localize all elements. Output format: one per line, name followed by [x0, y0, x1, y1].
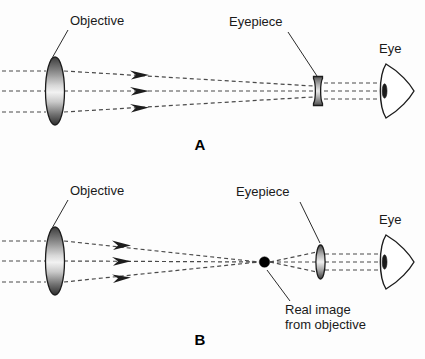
iris-b [382, 255, 387, 269]
eye-label-b: Eye [379, 212, 401, 227]
optics-figure: Objective Eyepiece Eye A [0, 0, 425, 359]
ray-arrowhead-top [130, 71, 149, 80]
eyepiece-label-b: Eyepiece [236, 184, 289, 199]
ray-diagram-canvas: Objective Eyepiece Eye A [0, 0, 425, 359]
panel-b: Objective Eyepiece Eye Real image from o… [2, 183, 414, 348]
diverging-ray-bottom-b [270, 262, 317, 272]
panel-letter-a: A [195, 136, 206, 153]
panel-b-exit-rays [325, 254, 383, 270]
converging-ray-middle-b [64, 261, 259, 262]
panel-a-exit-rays [324, 83, 383, 99]
objective-lens-b [46, 227, 65, 295]
eyepiece-label-a: Eyepiece [229, 14, 282, 29]
ray-arrowhead-top-b [112, 241, 131, 251]
eyepiece-leader-a [288, 32, 317, 76]
eye-label-a: Eye [379, 41, 401, 56]
objective-label-b: Objective [70, 183, 124, 198]
eyepiece-lens-concave [314, 77, 323, 106]
objective-leader-a [51, 30, 68, 60]
eyepiece-leader-b [300, 202, 320, 243]
ray-arrowhead-middle [130, 87, 149, 96]
panel-letter-b: B [195, 331, 206, 348]
diverging-ray-top-b [270, 252, 317, 262]
real-image-leader [267, 270, 290, 301]
converging-ray-bottom-b [64, 262, 259, 282]
eyepiece-lens-convex [316, 245, 325, 279]
eye-symbol-b [380, 235, 414, 289]
objective-label-a: Objective [70, 13, 124, 28]
real-image-dot [259, 257, 269, 267]
panel-b-converging-rays [64, 241, 259, 282]
panel-b-incoming-rays [2, 241, 46, 282]
panel-a-incoming-rays [2, 71, 46, 112]
objective-leader-b [51, 200, 68, 230]
iris-a [382, 84, 387, 98]
converging-ray-bottom [64, 97, 313, 112]
real-image-label-line2: from objective [285, 317, 366, 332]
objective-lens [46, 57, 65, 125]
panel-a-ray-arrowheads [130, 71, 149, 113]
panel-a-converging-rays [64, 71, 313, 112]
eye-symbol-a [380, 64, 414, 118]
ray-arrowhead-bottom [130, 104, 149, 113]
converging-ray-top-b [64, 241, 259, 262]
real-image-label-line1: Real image [285, 302, 351, 317]
converging-ray-top [64, 71, 313, 86]
panel-b-diverging-rays [270, 252, 317, 272]
panel-a: Objective Eyepiece Eye A [2, 13, 414, 153]
